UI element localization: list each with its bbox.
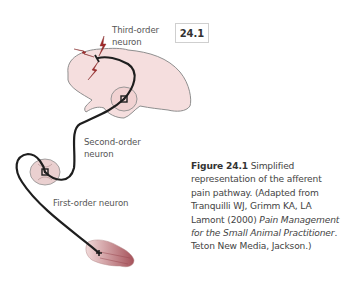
figure-caption: Figure 24.1 Simplified representation of… <box>191 160 343 254</box>
paw-hand-illustration <box>86 240 134 267</box>
first-order-text: First-order neuron <box>53 198 128 208</box>
second-order-line2: neuron <box>84 148 141 160</box>
figure-number-badge: 24.1 <box>175 23 209 43</box>
third-order-line2: neuron <box>112 36 159 48</box>
figure-badge-text: 24.1 <box>180 28 205 39</box>
third-order-neuron-label: Third-order neuron <box>112 24 159 49</box>
second-order-line1: Second-order <box>84 136 141 148</box>
third-order-line1: Third-order <box>112 24 159 36</box>
caption-figure-number: Figure 24.1 <box>191 161 248 171</box>
brain-illustration <box>68 48 191 118</box>
first-order-neuron-label: First-order neuron <box>53 197 128 209</box>
second-order-neuron-label: Second-order neuron <box>84 136 141 161</box>
